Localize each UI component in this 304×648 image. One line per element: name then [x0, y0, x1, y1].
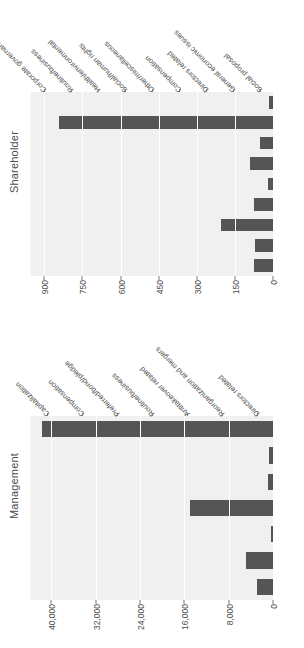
- value-tick-mark: [234, 276, 235, 280]
- bar-group-shareholder: [30, 92, 274, 276]
- value-tick-label: 40,000: [47, 604, 57, 630]
- bar: [59, 116, 274, 129]
- bar-slot: [30, 153, 274, 173]
- plot-area-management: [30, 416, 274, 600]
- bar-slot: [30, 133, 274, 153]
- category-tick-mark: [187, 413, 188, 416]
- bar-slot: [30, 469, 274, 495]
- bar-slot: [30, 113, 274, 133]
- plot-area-shareholder: [30, 92, 274, 276]
- gridline: [184, 416, 185, 600]
- value-axis-shareholder: 0150300450600750900: [30, 276, 274, 324]
- panel-title-management: Management: [0, 324, 28, 648]
- value-tick-mark: [82, 276, 83, 280]
- bar-slot: [30, 235, 274, 255]
- value-tick-mark: [95, 600, 96, 604]
- category-axis-management: CapitalizationCompensationPreferred/bond…: [30, 324, 274, 416]
- gridline: [121, 92, 122, 276]
- category-tick-mark: [206, 89, 207, 92]
- category-tick-mark: [98, 89, 99, 92]
- value-tick-label: 450: [155, 280, 165, 294]
- value-tick-mark: [51, 600, 52, 604]
- category-tick-mark: [179, 89, 180, 92]
- value-tick-label: 0: [269, 604, 279, 609]
- value-tick-mark: [273, 600, 274, 604]
- gridline-minor: [30, 416, 31, 600]
- value-tick-mark: [44, 276, 45, 280]
- category-tick-mark: [233, 89, 234, 92]
- value-tick-label: 24,000: [136, 604, 146, 630]
- category-tick-mark: [222, 413, 223, 416]
- value-tick-label: 300: [193, 280, 203, 294]
- category-tick-mark: [44, 89, 45, 92]
- bar-slot: [30, 256, 274, 276]
- category-tick-label: Other/miscellaneous: [102, 40, 157, 95]
- category-tick-mark: [71, 89, 72, 92]
- gridline: [197, 92, 198, 276]
- bar-slot: [30, 495, 274, 521]
- value-tick-mark: [228, 600, 229, 604]
- gridline: [159, 92, 160, 276]
- category-tick-mark: [82, 413, 83, 416]
- gridline: [140, 416, 141, 600]
- value-axis-management: 08,00016,00024,00032,00040,000: [30, 600, 274, 648]
- bar-slot: [30, 215, 274, 235]
- category-tick-mark: [117, 413, 118, 416]
- value-tick-mark: [120, 276, 121, 280]
- panel-shareholder: Shareholder 0150300450600750900 Corporat…: [0, 0, 304, 324]
- value-tick-label: 600: [117, 280, 127, 294]
- bar-slot: [30, 174, 274, 194]
- value-tick-label: 32,000: [92, 604, 102, 630]
- category-tick-mark: [257, 413, 258, 416]
- gridline: [82, 92, 83, 276]
- gridline: [273, 92, 274, 276]
- value-tick-mark: [273, 276, 274, 280]
- figure-root: Management 08,00016,00024,00032,00040,00…: [0, 0, 304, 648]
- panel-management: Management 08,00016,00024,00032,00040,00…: [0, 324, 304, 648]
- bar-slot: [30, 574, 274, 600]
- gridline: [229, 416, 230, 600]
- value-tick-label: 16,000: [180, 604, 190, 630]
- bar-slot: [30, 547, 274, 573]
- bar-slot: [30, 92, 274, 112]
- value-tick-mark: [158, 276, 159, 280]
- category-tick-mark: [260, 89, 261, 92]
- value-tick-mark: [184, 600, 185, 604]
- bar: [246, 552, 274, 568]
- bar-slot: [30, 442, 274, 468]
- bar: [255, 239, 274, 252]
- value-tick-mark: [139, 600, 140, 604]
- category-tick-label: Reorganization and mergers: [153, 345, 226, 418]
- value-tick-label: 0: [269, 280, 279, 285]
- value-tick-label: 8,000: [225, 604, 235, 625]
- gridline: [235, 92, 236, 276]
- value-tick-mark: [196, 276, 197, 280]
- bar: [190, 500, 274, 516]
- gridline-minor: [30, 92, 31, 276]
- bar-slot: [30, 416, 274, 442]
- value-tick-label: 150: [231, 280, 241, 294]
- bar: [221, 219, 274, 232]
- bar: [254, 259, 274, 272]
- bar: [257, 579, 274, 595]
- bar-slot: [30, 194, 274, 214]
- category-tick-mark: [152, 413, 153, 416]
- bar: [250, 157, 274, 170]
- gridline: [44, 92, 45, 276]
- bar: [260, 137, 274, 150]
- category-tick-label: Social/human rights: [76, 41, 129, 94]
- bar: [42, 421, 274, 437]
- category-axis-shareholder: Corporate governanceRoutine/businessHeal…: [30, 0, 274, 92]
- gridline: [51, 416, 52, 600]
- value-tick-label: 900: [40, 280, 50, 294]
- value-tick-label: 750: [78, 280, 88, 294]
- category-tick-mark: [47, 413, 48, 416]
- bar-slot: [30, 521, 274, 547]
- gridline: [96, 416, 97, 600]
- gridline: [273, 416, 274, 600]
- category-tick-mark: [152, 89, 153, 92]
- category-tick-mark: [125, 89, 126, 92]
- bar: [254, 198, 274, 211]
- bar-group-management: [30, 416, 274, 600]
